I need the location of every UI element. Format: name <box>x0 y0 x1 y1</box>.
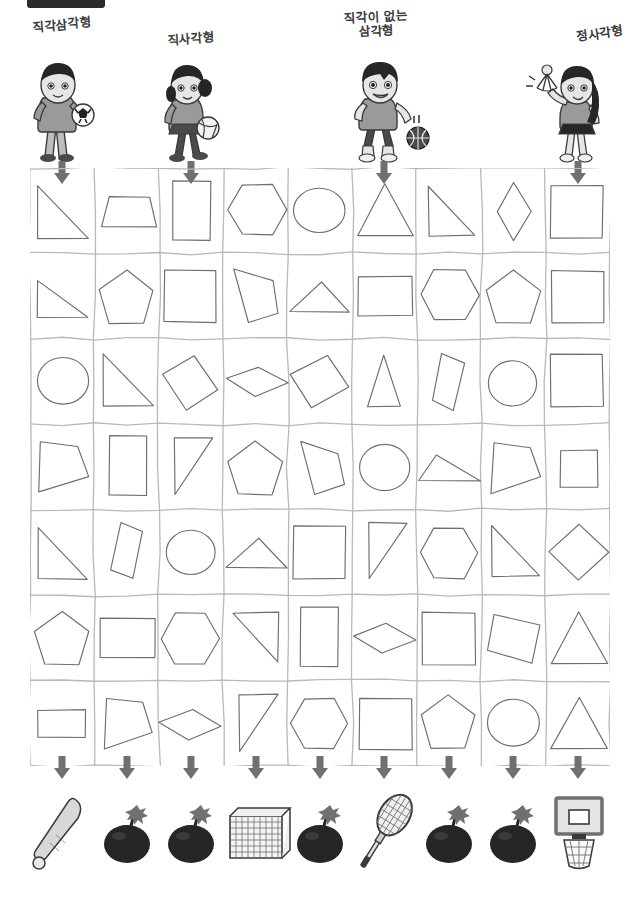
grid-cell-shape-flat-triangle[interactable] <box>290 282 349 312</box>
arrow-bottom-col-9-arrow-down-icon <box>567 755 589 781</box>
grid-cell-shape-pentagon[interactable] <box>99 270 153 324</box>
grid-cell-shape-rectangle-tall[interactable] <box>109 436 147 496</box>
arrow-bottom-col-2-arrow-down-icon <box>116 755 138 781</box>
grid-cell-shape-rhombus-flat[interactable] <box>354 623 416 653</box>
shape-grid[interactable] <box>30 168 610 766</box>
equipment-bomb-icon <box>284 786 356 878</box>
grid-cell-shape-circle[interactable] <box>37 358 88 405</box>
grid-cell-shape-triangle-equilateral[interactable] <box>358 184 414 236</box>
grid-cell-shape-square[interactable] <box>550 186 603 238</box>
grid-cell-shape-rhombus-flat[interactable] <box>159 709 221 740</box>
equipment-bomb-icon <box>155 786 227 878</box>
equipment-basketball-hoop-icon <box>542 786 614 878</box>
grid-cell-shape-diamond-tall[interactable] <box>497 182 531 240</box>
grid-cell-shape-flat-scalene-triangle[interactable] <box>419 455 481 481</box>
grid-cell-shape-square[interactable] <box>359 698 412 749</box>
girl-with-volleyball-icon <box>126 58 256 168</box>
arrow-bottom-col-4-arrow-down-icon <box>245 755 267 781</box>
grid-cell-shape-flat-triangle[interactable] <box>226 538 287 568</box>
equipment-soccer-goal-icon <box>220 786 292 878</box>
grid-cell-shape-quadrilateral-tilted[interactable] <box>301 441 345 494</box>
grid-cell-shape-circle[interactable] <box>360 444 410 490</box>
grid-cell-shape-square[interactable] <box>164 270 216 323</box>
grid-cell-shape-square[interactable] <box>550 354 603 407</box>
arrow-bottom-col-3-arrow-down-icon <box>180 755 202 781</box>
grid-cell-shape-pentagon[interactable] <box>486 270 540 323</box>
grid-cell-shape-triangle-equilateral[interactable] <box>551 698 608 749</box>
cropped-black-banner <box>27 0 105 8</box>
grid-cell-shape-square-small[interactable] <box>560 450 598 487</box>
grid-cell-shape-square[interactable] <box>293 526 346 579</box>
character-label: 직각삼각형 <box>0 12 128 38</box>
grid-cell-shape-diamond-large[interactable] <box>549 524 609 580</box>
equipment-baseball-bat-icon <box>26 786 98 878</box>
grid-cell-shape-right-triangle-thin[interactable] <box>369 522 407 578</box>
grid-cell-shape-circle[interactable] <box>488 361 536 406</box>
grid-cell-shape-right-triangle-thin[interactable] <box>239 694 278 751</box>
character-label: 직사각형 <box>126 27 257 50</box>
grid-cell-shape-rectangle-wide-small[interactable] <box>38 710 86 738</box>
equipment-icons-row <box>30 786 610 881</box>
character-label: 직각이 없는 삼각형 <box>311 7 442 43</box>
arrow-bottom-col-5-arrow-down-icon <box>309 755 331 781</box>
grid-cell-shape-pentagon[interactable] <box>228 441 283 495</box>
equipment-badminton-racket-icon <box>348 786 420 878</box>
grid-cell-shape-square[interactable] <box>422 612 475 665</box>
grid-cell-shape-quadrilateral-fan[interactable] <box>104 698 152 748</box>
grid-cell-shape-right-triangle[interactable] <box>38 528 87 580</box>
shape-grid-svg <box>30 168 610 766</box>
grid-cell-shape-square-tilted[interactable] <box>487 615 539 664</box>
grid-cell-shape-circle[interactable] <box>166 530 215 574</box>
grid-cell-shape-rectangle-tilted[interactable] <box>433 353 465 410</box>
grid-cell-shape-rhombus-flat[interactable] <box>226 367 288 396</box>
grid-cell-shape-circle[interactable] <box>294 188 345 232</box>
grid-cell-shape-diamond-rotated-large[interactable] <box>290 355 349 407</box>
character-girl-with-shuttlecock: 정사각형 <box>513 18 643 168</box>
arrow-bottom-col-6-arrow-down-icon <box>373 755 395 781</box>
arrow-bottom-col-7-arrow-down-icon <box>438 755 460 781</box>
grid-cell-shape-right-triangle-flipped[interactable] <box>492 525 540 576</box>
character-boy-with-basketball: 직각이 없는 삼각형 <box>319 18 449 168</box>
grid-cell-shape-triangle-equilateral[interactable] <box>551 612 607 664</box>
arrow-bottom-col-1-arrow-down-icon <box>51 755 73 781</box>
arrow-bottom-col-8-arrow-down-icon <box>502 755 524 781</box>
grid-cell-shape-diamond-rotated[interactable] <box>163 356 218 410</box>
grid-cell-shape-rectangle-tilted[interactable] <box>111 523 143 579</box>
grid-cell-shape-quadrilateral-fan[interactable] <box>39 442 89 492</box>
equipment-bomb-icon <box>91 786 163 878</box>
equipment-bomb-icon <box>413 786 485 878</box>
grid-cell-shape-pentagon[interactable] <box>421 695 475 748</box>
grid-cell-shape-right-triangle-corner[interactable] <box>233 612 279 662</box>
grid-cell-shape-rectangle-tall[interactable] <box>300 607 338 667</box>
grid-cell-shape-hexagon[interactable] <box>161 613 219 664</box>
grid-cell-shape-right-triangle[interactable] <box>38 186 89 239</box>
grid-cell-shape-trapezoid[interactable] <box>102 197 157 227</box>
character-boy-with-soccer-ball: 직각삼각형 <box>0 18 127 168</box>
grid-cell-shape-hexagon[interactable] <box>290 698 347 748</box>
grid-cell-shape-square[interactable] <box>551 270 603 322</box>
grid-cell-shape-right-triangle[interactable] <box>103 354 153 406</box>
grid-cell-shape-rectangle-wide[interactable] <box>358 276 413 316</box>
grid-cell-shape-pentagon[interactable] <box>34 611 88 664</box>
equipment-bomb-icon <box>477 786 549 878</box>
grid-cell-shape-rectangle-tall[interactable] <box>173 181 211 240</box>
boy-with-soccer-ball-icon <box>0 58 127 168</box>
grid-cell-shape-right-triangle-thin[interactable] <box>174 438 212 495</box>
character-label: 정사각형 <box>534 18 643 50</box>
grid-cell-shape-circle[interactable] <box>487 699 539 746</box>
boy-with-basketball-icon <box>319 58 449 168</box>
grid-cell-shape-quadrilateral-tilted[interactable] <box>234 269 278 322</box>
grid-cell-shape-hexagon[interactable] <box>228 184 287 235</box>
grid-cell-shape-rectangle-wide[interactable] <box>100 618 155 657</box>
grid-cell-shape-quadrilateral-fan[interactable] <box>491 443 541 494</box>
grid-cell-shape-hexagon[interactable] <box>420 528 477 579</box>
character-girl-with-volleyball: 직사각형 <box>126 18 256 168</box>
grid-cell-shape-triangle-narrow[interactable] <box>368 355 401 407</box>
girl-with-shuttlecock-icon <box>513 58 643 168</box>
arrows-bottom-row <box>30 755 610 781</box>
grid-cell-shape-right-triangle-small[interactable] <box>37 281 88 318</box>
grid-cell-shape-right-triangle-flipped[interactable] <box>428 186 474 236</box>
grid-cell-shape-hexagon[interactable] <box>421 269 479 319</box>
